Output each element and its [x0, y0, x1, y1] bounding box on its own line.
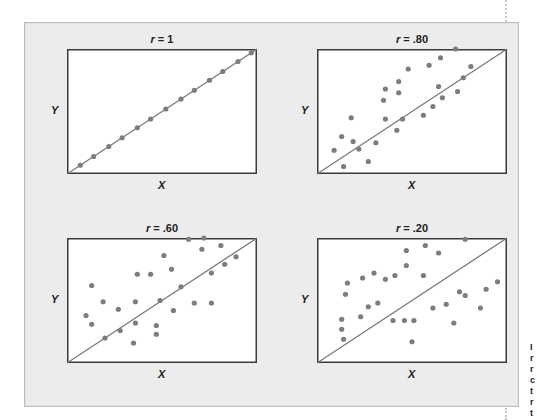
data-point	[192, 300, 197, 305]
caption-char: r	[530, 397, 537, 408]
data-point	[463, 293, 468, 298]
data-point	[178, 284, 183, 289]
data-point	[375, 300, 380, 305]
data-point	[394, 128, 399, 133]
data-point	[89, 283, 94, 288]
title-value: = .20	[400, 222, 428, 234]
data-point	[468, 64, 473, 69]
caption-char: c	[530, 375, 537, 386]
plot-title: r = .60	[67, 222, 257, 234]
data-point	[451, 320, 456, 325]
data-point	[478, 305, 483, 310]
data-point	[351, 139, 356, 144]
caption-char: r	[530, 353, 537, 364]
title-value: = 1	[155, 33, 174, 45]
data-point	[392, 273, 397, 278]
data-point	[371, 270, 376, 275]
data-point	[421, 113, 426, 118]
y-axis-label: Y	[301, 104, 308, 116]
caption-char: t	[530, 386, 537, 397]
data-point	[366, 304, 371, 309]
data-point	[463, 237, 468, 242]
data-point	[436, 84, 441, 89]
data-point	[169, 267, 174, 272]
data-point	[381, 98, 386, 103]
data-point	[133, 320, 138, 325]
data-point	[345, 280, 350, 285]
data-point	[404, 263, 409, 268]
data-point	[404, 248, 409, 253]
data-point	[356, 146, 361, 151]
data-point	[360, 275, 365, 280]
data-point	[390, 318, 395, 323]
plot-title: r = 1	[67, 33, 257, 45]
data-point	[163, 106, 168, 111]
page-guide-line-bottom	[505, 408, 507, 420]
plot-title: r = .80	[317, 33, 507, 45]
data-point	[396, 90, 401, 95]
data-point	[158, 298, 163, 303]
data-point	[430, 305, 435, 310]
data-point	[438, 55, 443, 60]
data-point	[430, 104, 435, 109]
data-point	[402, 318, 407, 323]
data-point	[91, 154, 96, 159]
data-point	[89, 322, 94, 327]
data-point	[101, 299, 106, 304]
caption-char: I	[530, 342, 537, 353]
caption-char: r	[530, 364, 537, 375]
title-value: = .60	[150, 222, 178, 234]
data-point	[339, 327, 344, 332]
side-caption-fragment: I r r c t r t	[530, 342, 537, 419]
data-point	[171, 308, 176, 313]
data-point	[102, 335, 107, 340]
data-point	[461, 75, 466, 80]
data-point	[235, 59, 240, 64]
data-point	[154, 323, 159, 328]
data-point	[427, 63, 432, 68]
data-point	[440, 95, 445, 100]
data-point	[218, 243, 223, 248]
data-point	[411, 318, 416, 323]
data-point	[178, 96, 183, 101]
data-point	[366, 159, 371, 164]
data-point	[373, 140, 378, 145]
data-point	[358, 314, 363, 319]
y-axis-label: Y	[51, 293, 58, 305]
data-point	[455, 89, 460, 94]
x-axis-label: X	[408, 368, 415, 380]
x-axis-label: X	[158, 179, 165, 191]
page-guide-line	[505, 0, 507, 22]
data-point	[484, 287, 489, 292]
caption-char: t	[530, 408, 537, 419]
data-point	[154, 332, 159, 337]
data-point	[83, 313, 88, 318]
data-point	[421, 273, 426, 278]
data-point	[209, 300, 214, 305]
data-point	[436, 250, 441, 255]
x-axis-label: X	[158, 368, 165, 380]
plot-area	[67, 238, 257, 363]
plot-area	[317, 49, 507, 174]
plot-area	[67, 49, 257, 174]
plot-title: r = .20	[317, 222, 507, 234]
data-point	[339, 317, 344, 322]
data-point	[78, 163, 83, 168]
y-axis-label: Y	[301, 293, 308, 305]
data-point	[423, 243, 428, 248]
data-point	[341, 337, 346, 342]
data-point	[161, 253, 166, 258]
data-point	[120, 135, 125, 140]
data-point	[396, 79, 401, 84]
x-axis-label: X	[408, 179, 415, 191]
y-axis-label: Y	[51, 104, 58, 116]
data-point	[383, 116, 388, 121]
data-point	[234, 254, 239, 259]
data-point	[383, 86, 388, 91]
data-point	[409, 339, 414, 344]
data-point	[192, 88, 197, 93]
data-point	[457, 289, 462, 294]
data-point	[220, 69, 225, 74]
data-point	[148, 272, 153, 277]
data-point	[349, 115, 354, 120]
